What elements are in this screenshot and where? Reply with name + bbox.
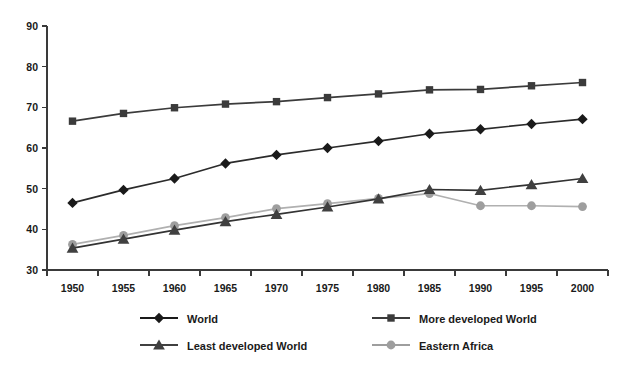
data-point-square-icon	[477, 86, 484, 93]
x-tick-label: 1995	[520, 282, 544, 294]
x-tick-label: 1955	[112, 282, 136, 294]
data-point-diamond-icon	[169, 173, 179, 183]
data-point-circle-icon	[476, 201, 485, 210]
x-tick-label: 1950	[61, 282, 85, 294]
series-line	[73, 119, 583, 203]
x-tick-label: 1960	[163, 282, 187, 294]
data-point-diamond-icon	[271, 150, 281, 160]
data-point-square-icon	[69, 117, 76, 124]
data-point-circle-icon	[527, 201, 536, 210]
y-tick-label: 70	[26, 101, 38, 113]
y-axis: 30405060708090	[26, 20, 47, 276]
x-tick-label: 1990	[469, 282, 493, 294]
legend-item-more-developed-world[interactable]: More developed World	[372, 313, 537, 325]
chart-canvas: 30405060708090 1950195519601965197019751…	[0, 0, 622, 371]
data-point-diamond-icon	[424, 129, 434, 139]
x-tick-label: 1975	[316, 282, 340, 294]
y-tick-label: 50	[26, 183, 38, 195]
data-point-circle-icon	[387, 341, 396, 350]
series-line	[73, 83, 583, 122]
y-tick-label: 80	[26, 61, 38, 73]
data-point-square-icon	[273, 98, 280, 105]
data-point-diamond-icon	[67, 198, 77, 208]
line-chart: 30405060708090 1950195519601965197019751…	[0, 0, 622, 371]
data-point-diamond-icon	[526, 119, 536, 129]
data-point-diamond-icon	[220, 158, 230, 168]
data-point-square-icon	[426, 86, 433, 93]
data-point-square-icon	[387, 314, 394, 321]
y-tick-label: 40	[26, 223, 38, 235]
legend-item-eastern-africa[interactable]: Eastern Africa	[372, 340, 494, 352]
data-point-diamond-icon	[373, 136, 383, 146]
legend-item-world[interactable]: World	[140, 313, 218, 325]
data-point-square-icon	[171, 104, 178, 111]
chart-legend: WorldMore developed WorldLeast developed…	[140, 313, 537, 352]
x-tick-label: 1970	[265, 282, 289, 294]
series-layer	[67, 79, 589, 253]
data-point-square-icon	[375, 90, 382, 97]
x-tick-label: 1965	[214, 282, 238, 294]
data-point-diamond-icon	[118, 185, 128, 195]
series-more-developed-world	[69, 79, 586, 125]
series-line	[73, 179, 583, 249]
y-tick-label: 60	[26, 142, 38, 154]
data-point-square-icon	[120, 110, 127, 117]
data-point-square-icon	[579, 79, 586, 86]
data-point-diamond-icon	[154, 313, 164, 323]
x-tick-label: 1985	[418, 282, 442, 294]
data-point-square-icon	[528, 82, 535, 89]
data-point-square-icon	[222, 100, 229, 107]
x-tick-label: 2000	[571, 282, 595, 294]
legend-label: More developed World	[419, 313, 537, 325]
series-eastern-africa	[68, 189, 587, 249]
y-tick-label: 90	[26, 20, 38, 32]
data-point-square-icon	[324, 94, 331, 101]
data-point-diamond-icon	[577, 114, 587, 124]
legend-label: Least developed World	[187, 340, 307, 352]
legend-label: Eastern Africa	[419, 340, 494, 352]
y-tick-label: 30	[26, 264, 38, 276]
data-point-circle-icon	[578, 202, 587, 211]
series-world	[67, 114, 587, 208]
data-point-triangle-icon	[577, 173, 589, 183]
x-tick-label: 1980	[367, 282, 391, 294]
data-point-diamond-icon	[475, 124, 485, 134]
legend-item-least-developed-world[interactable]: Least developed World	[140, 339, 307, 351]
legend-label: World	[187, 313, 218, 325]
x-axis: 1950195519601965197019751980198519901995…	[47, 270, 608, 294]
data-point-diamond-icon	[322, 143, 332, 153]
